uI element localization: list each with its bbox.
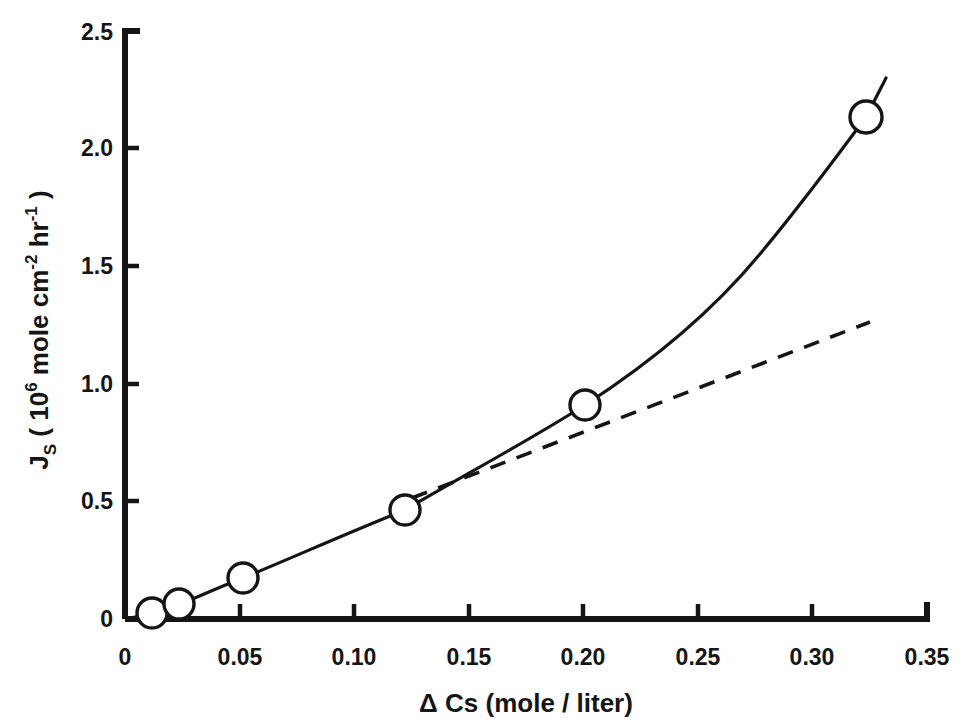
x-axis-title: Δ Cs (mole / liter)	[419, 688, 633, 718]
y-title-factor-exponent: 6	[22, 382, 41, 391]
figure-container: 0 0.5 1.0 1.5 2.0 2.5 0 0.05 0.10 0.15 0…	[0, 0, 978, 726]
y-tick-label-1-5: 1.5	[81, 253, 113, 279]
experimental-curve	[131, 78, 886, 618]
y-tick-labels: 0 0.5 1.0 1.5 2.0 2.5	[81, 19, 113, 632]
svg-text:JS ( 106 mole cm-2 hr-1 ): JS ( 106 mole cm-2 hr-1 )	[22, 190, 60, 469]
y-axis-line	[125, 31, 140, 619]
data-point-marker	[390, 495, 420, 525]
y-title-unit-hr-exponent: -1	[22, 206, 41, 221]
x-tick-label-0: 0	[119, 644, 132, 670]
y-title-unit-cm: cm	[24, 270, 54, 308]
y-title-symbol-subscript: S	[41, 444, 60, 455]
data-point-markers	[137, 101, 882, 628]
x-tick-label-0-10: 0.10	[332, 644, 377, 670]
y-title-factor-base: 10	[24, 392, 54, 421]
scientific-plot: 0 0.5 1.0 1.5 2.0 2.5 0 0.05 0.10 0.15 0…	[0, 0, 978, 726]
y-axis-title: JS ( 106 mole cm-2 hr-1 )	[22, 190, 60, 469]
x-title-units: (mole / liter)	[486, 688, 633, 718]
y-title-close-paren: )	[24, 190, 54, 199]
x-title-delta: Δ	[419, 688, 438, 718]
x-axis-line	[125, 602, 927, 619]
y-tick-label-2-0: 2.0	[81, 135, 113, 161]
x-tick-label-0-15: 0.15	[447, 644, 492, 670]
data-point-marker	[228, 563, 258, 593]
x-tick-label-0-30: 0.30	[790, 644, 835, 670]
y-title-unit-mole: mole	[24, 314, 54, 375]
x-tick-label-0-35: 0.35	[905, 644, 950, 670]
y-title-unit-hr: hr	[24, 221, 54, 247]
y-tick-label-0-5: 0.5	[81, 488, 113, 514]
y-title-unit-cm-exponent: -2	[22, 255, 41, 270]
data-point-marker	[570, 390, 600, 420]
x-tick-label-0-05: 0.05	[218, 644, 263, 670]
data-point-marker	[850, 101, 882, 133]
y-tick-label-2-5: 2.5	[81, 19, 113, 45]
linear-extrapolation-dashed-line	[412, 322, 870, 498]
x-tick-label-0-25: 0.25	[676, 644, 721, 670]
y-tick-label-1-0: 1.0	[81, 371, 113, 397]
axes-group	[125, 31, 927, 619]
x-title-symbol: Cs	[445, 688, 478, 718]
y-title-symbol: J	[24, 455, 54, 469]
y-title-open-paren: (	[24, 428, 54, 437]
x-tick-label-0-20: 0.20	[561, 644, 606, 670]
data-point-marker	[164, 589, 194, 619]
y-tick-label-0: 0	[100, 606, 113, 632]
x-tick-labels: 0 0.05 0.10 0.15 0.20 0.25 0.30 0.35	[119, 644, 950, 670]
svg-text:Δ Cs (mole / liter): Δ Cs (mole / liter)	[419, 688, 633, 718]
